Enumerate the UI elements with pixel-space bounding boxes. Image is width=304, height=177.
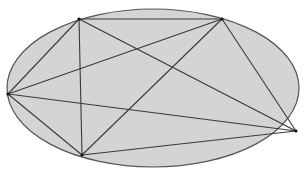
ellipse-region xyxy=(7,9,299,167)
k5-ellipse-diagram xyxy=(0,0,304,177)
vertex-D xyxy=(294,129,297,132)
vertex-A xyxy=(77,17,80,20)
vertex-C xyxy=(6,92,9,95)
vertex-E xyxy=(80,153,83,156)
vertex-B xyxy=(220,17,223,20)
